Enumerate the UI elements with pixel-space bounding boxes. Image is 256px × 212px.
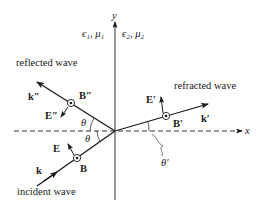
incident-angle-arc — [97, 131, 100, 141]
reflected-k-label: k″ — [28, 91, 40, 102]
incident-k-arrow-icon — [44, 172, 57, 181]
medium-2-label: ϵ₂, μ₂ — [122, 28, 144, 39]
incident-wave-label: incident wave — [17, 186, 76, 197]
reflected-e-arrow-icon — [61, 107, 68, 117]
incident-e-arrow-icon — [68, 144, 74, 155]
x-axis-label: x — [244, 125, 250, 136]
y-axis-label: y — [111, 10, 117, 21]
refracted-angle-arc — [148, 122, 149, 131]
refracted-wave: k′ B′ E′ θ′ refracted wave — [115, 80, 236, 168]
incident-k-label: k — [36, 165, 42, 176]
refracted-k-label: k′ — [201, 113, 210, 124]
refracted-e-label: E′ — [146, 94, 156, 105]
incident-wave: k B E θ incident wave — [17, 131, 115, 197]
refracted-wave-label: refracted wave — [174, 80, 236, 91]
incident-e-label: E — [53, 143, 60, 154]
reflected-b-dot-icon — [67, 99, 74, 106]
incident-b-label: B — [80, 163, 87, 174]
medium-1-label: ϵ₁, μ₁ — [82, 28, 104, 39]
reflected-e-label: E″ — [45, 110, 58, 121]
y-axis: y — [111, 10, 117, 200]
reflected-wave: k″ B″ E″ θ reflected wave — [16, 57, 115, 131]
incident-b-dot-icon — [73, 154, 80, 161]
reflection-refraction-diagram: y x ϵ₁, μ₁ ϵ₂, μ₂ k B E θ incident wave … — [0, 0, 256, 212]
refracted-e-arrow-icon — [161, 97, 163, 113]
refracted-b-dot-icon — [162, 112, 169, 119]
refracted-angle-pointer — [152, 134, 163, 156]
incident-angle-label: θ — [85, 133, 90, 144]
refracted-b-label: B′ — [173, 118, 183, 129]
reflected-b-label: B″ — [79, 90, 92, 101]
reflected-wave-label: reflected wave — [16, 57, 78, 68]
reflected-angle-arc — [90, 118, 94, 131]
refracted-angle-label: θ′ — [161, 157, 169, 168]
reflected-angle-label: θ — [81, 117, 86, 128]
